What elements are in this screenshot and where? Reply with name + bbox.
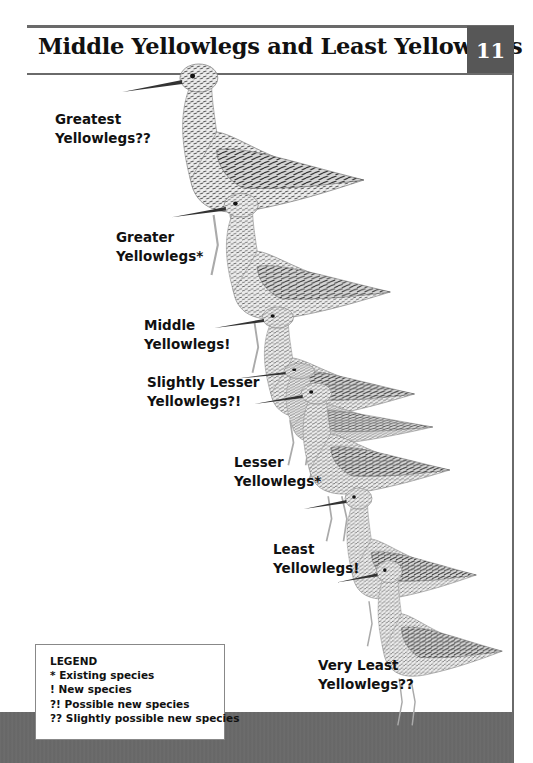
label-greatest-yellowlegs: Greatest Yellowlegs?? <box>55 110 151 148</box>
label-very-least-yellowlegs: Very Least Yellowlegs?? <box>318 656 414 694</box>
legend-item: ! New species <box>50 682 224 696</box>
label-greater-yellowlegs: Greater Yellowlegs* <box>116 228 203 266</box>
label-least-yellowlegs: Least Yellowlegs! <box>273 540 359 578</box>
legend: LEGEND * Existing species ! New species … <box>35 644 225 740</box>
label-slightly-lesser-yellowlegs: Slightly Lesser Yellowlegs?! <box>147 373 259 411</box>
label-middle-yellowlegs: Middle Yellowlegs! <box>144 316 230 354</box>
legend-item: ?? Slightly possible new species <box>50 711 224 725</box>
label-lesser-yellowlegs: Lesser Yellowlegs* <box>234 453 321 491</box>
legend-item: ?! Possible new species <box>50 697 224 711</box>
legend-item: * Existing species <box>50 668 224 682</box>
legend-title: LEGEND <box>50 654 224 668</box>
